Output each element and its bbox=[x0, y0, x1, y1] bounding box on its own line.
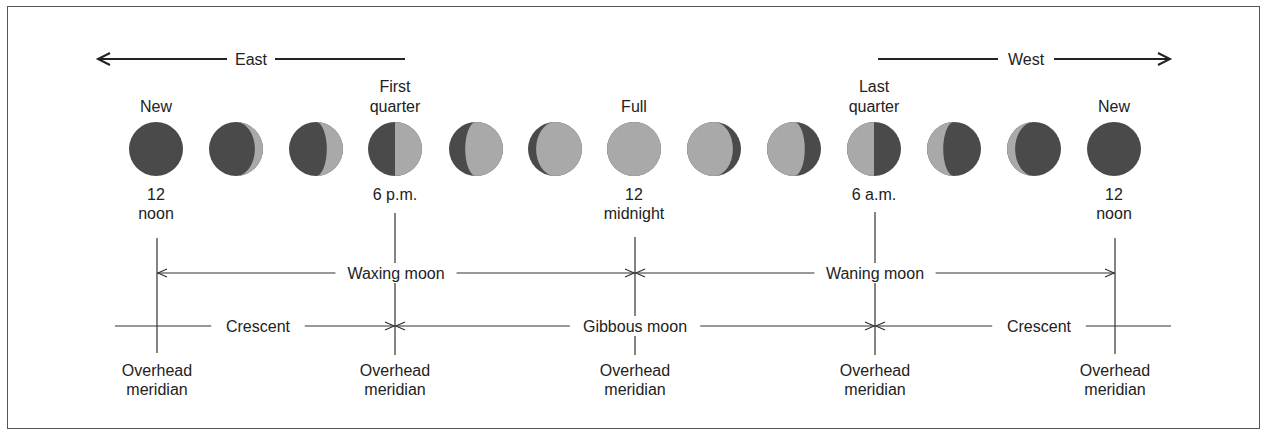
crescent_right-label: Crescent bbox=[1007, 318, 1072, 335]
moon-phase-4 bbox=[368, 122, 422, 176]
moon-phase-1 bbox=[129, 122, 183, 176]
waning-label: Waning moon bbox=[826, 265, 924, 282]
overhead-meridian-label: Overhead bbox=[1080, 362, 1150, 379]
moon-phase-5 bbox=[449, 122, 503, 176]
time-label: 12 bbox=[1105, 186, 1123, 203]
phase-label: quarter bbox=[370, 98, 421, 115]
moon-phase-9 bbox=[767, 122, 821, 176]
overhead-meridian-label: Overhead bbox=[360, 362, 430, 379]
east-label: East bbox=[235, 51, 268, 68]
overhead-meridian-label: meridian bbox=[604, 381, 665, 398]
phase-name-labels: NewFirstquarterFullLastquarterNew bbox=[140, 78, 1130, 115]
phase-label: quarter bbox=[849, 98, 900, 115]
time-label: noon bbox=[138, 205, 174, 222]
crescent_right-span: Crescent bbox=[875, 318, 1171, 335]
time-labels: 12noon6 p.m.12midnight6 a.m.12noon bbox=[138, 186, 1132, 222]
overhead-meridian-label: meridian bbox=[126, 381, 187, 398]
moon-phase-10 bbox=[847, 122, 901, 176]
moon-phase-3 bbox=[289, 122, 343, 176]
waxing-label: Waxing moon bbox=[347, 265, 444, 282]
west-label: West bbox=[1008, 51, 1045, 68]
time-label: 12 bbox=[147, 186, 165, 203]
crescent_left-label: Crescent bbox=[226, 318, 291, 335]
phase-label: Last bbox=[859, 78, 890, 95]
moon-phases-diagram: East West NewFirstquarterFullLastquarter… bbox=[0, 0, 1269, 444]
moon-phase-6 bbox=[528, 122, 582, 176]
gibbous-span: Gibbous moon bbox=[395, 318, 875, 335]
waxing-span: Waxing moon bbox=[157, 265, 635, 282]
overhead-meridian-label: meridian bbox=[1084, 381, 1145, 398]
moon-phase-11 bbox=[927, 122, 981, 176]
overhead-meridian-label: meridian bbox=[844, 381, 905, 398]
overhead-meridian-label: Overhead bbox=[600, 362, 670, 379]
overhead-meridian-label: Overhead bbox=[122, 362, 192, 379]
moon-phase-13 bbox=[1087, 122, 1141, 176]
moon-phase-2 bbox=[209, 122, 263, 176]
moon-phase-8 bbox=[687, 122, 741, 176]
phase-label: New bbox=[140, 98, 172, 115]
overhead-meridian-label: meridian bbox=[364, 381, 425, 398]
east-direction-arrow: East bbox=[98, 51, 405, 68]
time-label: 6 a.m. bbox=[852, 186, 896, 203]
time-label: noon bbox=[1096, 205, 1132, 222]
overhead-meridian-label: Overhead bbox=[840, 362, 910, 379]
gibbous-label: Gibbous moon bbox=[583, 318, 687, 335]
moon-phase-12 bbox=[1007, 122, 1061, 176]
time-label: midnight bbox=[604, 205, 665, 222]
moon-phase-row bbox=[129, 122, 1141, 176]
waning-span: Waning moon bbox=[635, 265, 1115, 282]
time-label: 6 p.m. bbox=[373, 186, 417, 203]
moon-phase-7 bbox=[607, 122, 661, 176]
phase-span-arrows: Waxing moonWaning moonCrescentGibbous mo… bbox=[115, 265, 1171, 335]
time-label: 12 bbox=[625, 186, 643, 203]
phase-label: Full bbox=[621, 98, 647, 115]
phase-label: First bbox=[379, 78, 411, 95]
phase-label: New bbox=[1098, 98, 1130, 115]
overhead-meridian-labels: OverheadmeridianOverheadmeridianOverhead… bbox=[122, 362, 1150, 398]
west-direction-arrow: West bbox=[878, 51, 1170, 68]
